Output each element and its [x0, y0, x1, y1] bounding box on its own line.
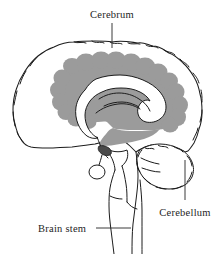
midbrain-dark-patch — [98, 146, 111, 156]
label-cerebrum-text: Cerebrum — [90, 9, 134, 20]
pituitary-stalk — [99, 155, 102, 165]
midbrain-group — [89, 146, 128, 179]
pituitary-gland — [89, 165, 105, 179]
brain-stem-group — [109, 152, 142, 254]
brain-stem-right-edge — [132, 152, 138, 254]
brain-anatomy-diagram: Cerebrum Cerebellum Brain stem — [0, 0, 224, 254]
brain-stem-left-edge — [109, 170, 115, 254]
label-cerebellum-text: Cerebellum — [159, 207, 210, 218]
label-brain-stem: Brain stem — [38, 223, 131, 234]
pons-contour — [110, 196, 137, 209]
label-brain-stem-text: Brain stem — [38, 223, 86, 234]
